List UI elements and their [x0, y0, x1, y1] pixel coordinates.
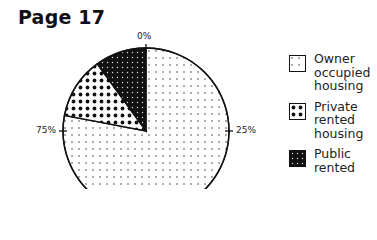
tick-label-0: 0%: [137, 31, 151, 41]
tick-label-75: 75%: [36, 125, 56, 135]
legend-item-public: Public rented: [289, 147, 374, 174]
private-swatch-icon: [289, 103, 306, 120]
legend-label: Public rented: [314, 147, 374, 174]
legend: Owner occupied housing Private rented ho…: [289, 52, 374, 181]
tick-label-25: 25%: [236, 125, 256, 135]
pie-slices: [63, 48, 229, 189]
legend-label: Private rented housing: [314, 100, 374, 141]
legend-label: Owner occupied housing: [314, 52, 374, 93]
public-swatch-icon: [289, 150, 306, 167]
legend-item-private: Private rented housing: [289, 100, 374, 141]
owner-swatch-icon: [289, 55, 306, 72]
legend-item-owner: Owner occupied housing: [289, 52, 374, 93]
